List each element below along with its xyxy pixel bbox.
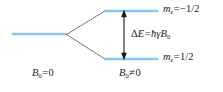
delta-symbol: Δ <box>131 28 138 39</box>
b0-value-left: 0 <box>49 67 54 78</box>
zeeman-splitting-diagram: mz=−1/2 mz=1/2 ΔE=ħγB0 B0=0 B0≠0 <box>0 0 223 92</box>
b0-operator-left: = <box>42 67 49 78</box>
mz-symbol-upper: m <box>163 3 171 14</box>
axis-label-field-zero: B0=0 <box>32 68 54 79</box>
mz-value-lower: 1/2 <box>180 51 193 62</box>
b0-value-right: 0 <box>135 67 140 78</box>
axis-label-field-nonzero: B0≠0 <box>119 68 141 79</box>
energy-gap-arrow <box>121 10 127 61</box>
mz-subscript-lower: z <box>171 56 174 63</box>
mz-subscript-upper: z <box>171 8 174 15</box>
mz-value-upper: −1/2 <box>180 3 199 14</box>
b0-subscript-left: 0 <box>38 72 41 79</box>
mz-operator-upper: = <box>173 3 180 14</box>
field-symbol: B <box>161 28 167 39</box>
quantum-number-label-upper: mz=−1/2 <box>163 4 199 15</box>
mz-symbol-lower: m <box>163 51 171 62</box>
energy-gap-equation-label: ΔE=ħγB0 <box>131 29 170 40</box>
field-subscript: 0 <box>167 33 170 40</box>
branch-line-lower <box>67 35 106 60</box>
quantum-number-label-lower: mz=1/2 <box>163 52 193 63</box>
b0-subscript-right: 0 <box>125 72 128 79</box>
mz-operator-lower: = <box>173 51 180 62</box>
branch-line-upper <box>67 11 106 35</box>
